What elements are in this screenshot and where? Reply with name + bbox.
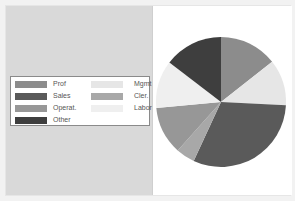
legend-swatch-labor — [91, 105, 123, 112]
legend-swatch-sales — [15, 93, 47, 100]
legend-item-cler: Cler. — [91, 90, 148, 102]
pie-slices — [156, 37, 286, 167]
legend-item-labor: Labor — [91, 102, 152, 114]
legend-label-cler: Cler. — [134, 90, 148, 102]
legend-swatch-prof — [15, 81, 47, 88]
legend-swatch-mgmt — [91, 81, 123, 88]
legend-label-prof: Prof — [53, 78, 66, 90]
legend-label-mgmt: Mgmt — [134, 78, 152, 90]
legend-item-sales: Sales — [15, 90, 71, 102]
legend-item-operat: Operat. — [15, 102, 76, 114]
legend-item-other: Other — [15, 114, 71, 126]
legend-item-prof: Prof — [15, 78, 66, 90]
legend-item-mgmt: Mgmt — [91, 78, 152, 90]
legend-swatch-cler — [91, 93, 123, 100]
legend-swatch-other — [15, 117, 47, 124]
legend-label-labor: Labor — [134, 102, 152, 114]
legend-swatch-operat — [15, 105, 47, 112]
legend-label-other: Other — [53, 114, 71, 126]
legend-label-operat: Operat. — [53, 102, 76, 114]
legend: Prof Sales Operat. Other Mgmt Cler. Labo… — [10, 76, 150, 126]
legend-label-sales: Sales — [53, 90, 71, 102]
